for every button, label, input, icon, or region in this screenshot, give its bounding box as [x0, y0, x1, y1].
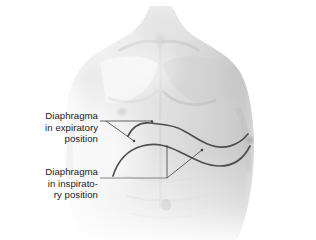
diaphragm-expiratory-label: Diaphragma in expiratory position	[6, 110, 98, 145]
diaphragm-inspiratory-label: Diaphragma in inspirato- ry position	[6, 166, 98, 201]
inspiratory-line-2: in inspirato-	[6, 178, 98, 190]
expiratory-line-2: in expiratory	[6, 122, 98, 134]
expiratory-line-3: position	[6, 133, 98, 145]
expiratory-line-1: Diaphragma	[6, 110, 98, 122]
inspiratory-line-3: ry position	[6, 189, 98, 201]
illustration-root: Diaphragma in expiratory position Diaphr…	[0, 0, 316, 240]
inspiratory-line-1: Diaphragma	[6, 166, 98, 178]
